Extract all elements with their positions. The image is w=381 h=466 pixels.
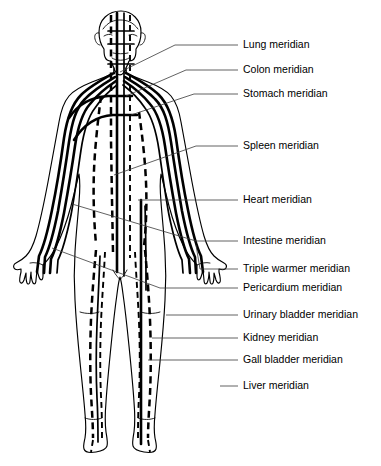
label-gall-bladder-meridian: Gall bladder meridian (243, 353, 343, 365)
head-outline (99, 11, 141, 75)
meridian-diagram-page: Lung meridian Colon meridian Stomach mer… (0, 0, 381, 466)
label-triple-warmer-meridian: Triple warmer meridian (243, 262, 350, 274)
label-stomach-meridian: Stomach meridian (243, 87, 328, 99)
meridian-labels: Lung meridian Colon meridian Stomach mer… (243, 38, 358, 391)
leader-line-lung (120, 45, 238, 72)
label-pericardium-meridian: Pericardium meridian (243, 281, 342, 293)
label-colon-meridian: Colon meridian (243, 63, 314, 75)
label-liver-meridian: Liver meridian (243, 379, 309, 391)
label-urinary-bladder-meridian: Urinary bladder meridian (243, 308, 358, 320)
label-heart-meridian: Heart meridian (243, 193, 312, 205)
label-kidney-meridian: Kidney meridian (243, 331, 318, 343)
label-intestine-meridian: Intestine meridian (243, 234, 326, 246)
meridian-diagram-svg: Lung meridian Colon meridian Stomach mer… (0, 0, 381, 466)
label-spleen-meridian: Spleen meridian (243, 139, 319, 151)
meridian-right-leg-solid-2 (145, 206, 146, 290)
label-lung-meridian: Lung meridian (243, 38, 310, 50)
body-figure (14, 11, 227, 452)
